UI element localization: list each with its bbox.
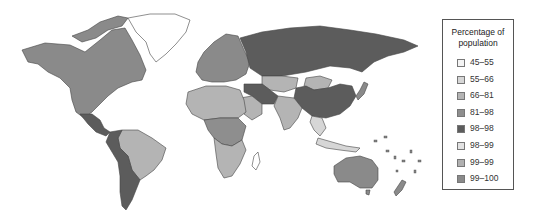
legend-item-label: 99–100	[470, 172, 498, 184]
world-choropleth-map	[0, 0, 440, 212]
legend-swatch	[457, 142, 465, 150]
legend-item: 98–98	[457, 122, 513, 139]
region-indonesia	[316, 138, 360, 152]
legend-item-label: 98–99	[470, 139, 494, 151]
legend-item-label: 55–66	[470, 73, 494, 85]
region-russia	[240, 26, 418, 76]
legend-item: 98–99	[457, 139, 513, 156]
legend-swatch	[457, 76, 465, 84]
legend-item: 55–66	[457, 73, 513, 90]
legend-swatch	[457, 109, 465, 117]
legend-swatch	[457, 92, 465, 100]
legend-item: 45–55	[457, 56, 513, 73]
legend-swatch	[457, 59, 465, 67]
legend-title-line2: population	[443, 38, 513, 49]
region-tasmania	[366, 190, 370, 195]
legend-item: 99–99	[457, 156, 513, 173]
legend-swatch	[457, 159, 465, 167]
legend-item-label: 99–99	[470, 156, 494, 168]
pacific-islands	[374, 136, 421, 173]
legend-item-label: 66–81	[470, 89, 494, 101]
region-north-africa	[186, 86, 246, 120]
legend-swatch	[457, 175, 465, 183]
region-japan	[356, 82, 368, 100]
region-madagascar	[252, 152, 260, 170]
legend-items: 45–55 55–66 66–81 81–98 98–98 98–99 99–9…	[443, 56, 513, 189]
legend-item: 99–100	[457, 172, 513, 189]
region-southeast-asia	[310, 116, 326, 136]
legend-title: Percentage of population	[443, 27, 513, 49]
region-central-america	[80, 114, 110, 136]
legend-item: 81–98	[457, 106, 513, 123]
legend-swatch	[457, 125, 465, 133]
legend-item: 66–81	[457, 89, 513, 106]
legend-item-label: 45–55	[470, 56, 494, 68]
legend-item-label: 81–98	[470, 106, 494, 118]
map-legend: Percentage of population 45–55 55–66 66–…	[442, 19, 514, 190]
legend-title-line1: Percentage of	[443, 27, 513, 38]
legend-item-label: 98–98	[470, 122, 494, 134]
region-australia	[334, 156, 378, 188]
region-new-zealand	[394, 180, 406, 196]
region-china	[294, 84, 356, 118]
